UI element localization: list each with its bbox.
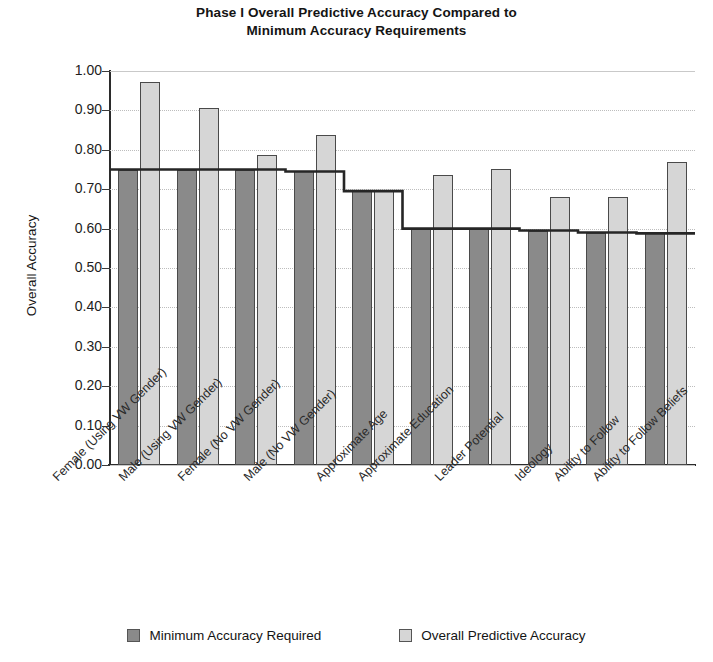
y-axis-tick-label: 0.80 (44, 141, 102, 157)
legend-swatch-pred (399, 629, 412, 642)
legend-label: Overall Predictive Accuracy (421, 628, 585, 643)
chart-container: Phase I Overall Predictive Accuracy Comp… (0, 0, 713, 662)
legend-swatch-min (127, 629, 140, 642)
x-axis-tick-labels: Female (Using VW Gender)Male (Using VW G… (0, 466, 713, 616)
y-axis-tick (102, 386, 110, 387)
chart-legend: Minimum Accuracy RequiredOverall Predict… (0, 622, 713, 648)
gridline (110, 229, 695, 230)
gridline (110, 189, 695, 190)
y-axis-tick (102, 189, 110, 190)
bar (140, 82, 160, 465)
y-axis-tick-labels: 1.000.900.800.700.600.500.400.300.200.10… (42, 71, 102, 465)
legend-item[interactable]: Minimum Accuracy Required (127, 628, 321, 643)
y-axis-tick (102, 347, 110, 348)
bar (433, 175, 453, 465)
bar (667, 162, 687, 465)
y-axis-title: Overall Accuracy (18, 180, 44, 360)
y-axis-tick-label: 0.60 (44, 220, 102, 236)
gridline (110, 110, 695, 111)
gridline (110, 307, 695, 308)
y-axis-tick-label: 0.70 (44, 180, 102, 196)
y-axis-tick-label: 0.50 (44, 259, 102, 275)
y-axis-tick-label: 0.30 (44, 338, 102, 354)
gridline (110, 386, 695, 387)
bar (528, 231, 548, 465)
bar (199, 108, 219, 465)
y-axis-tick (102, 110, 110, 111)
chart-title-line-1: Phase I Overall Predictive Accuracy Comp… (0, 4, 713, 22)
y-axis-tick (102, 307, 110, 308)
y-axis-title-text: Overall Accuracy (24, 176, 39, 356)
y-axis-tick-label: 1.00 (44, 62, 102, 78)
y-axis-tick-label: 0.40 (44, 298, 102, 314)
bar (550, 197, 570, 465)
y-axis-tick-label: 0.20 (44, 377, 102, 393)
threshold-step-path (110, 170, 695, 234)
y-axis-tick (102, 229, 110, 230)
legend-label: Minimum Accuracy Required (149, 628, 321, 643)
gridline (110, 71, 695, 72)
y-axis-tick-label: 0.90 (44, 101, 102, 117)
y-axis-tick (102, 150, 110, 151)
bar (257, 155, 277, 465)
gridline (110, 347, 695, 348)
chart-title: Phase I Overall Predictive Accuracy Comp… (0, 4, 713, 40)
gridline (110, 268, 695, 269)
chart-title-line-2: Minimum Accuracy Requirements (0, 22, 713, 40)
legend-item[interactable]: Overall Predictive Accuracy (399, 628, 585, 643)
y-axis-tick (102, 268, 110, 269)
gridline (110, 150, 695, 151)
y-axis-tick (102, 71, 110, 72)
